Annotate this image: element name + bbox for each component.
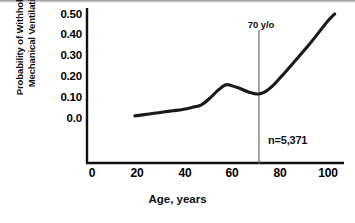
x-axis-title: Age, years	[0, 193, 355, 205]
x-tick-label: 20	[117, 166, 157, 180]
sample-size-annotation: n=5,371	[268, 134, 307, 146]
x-tick-label: 60	[212, 166, 252, 180]
x-tick-label: 80	[260, 166, 300, 180]
x-tick-label: 100	[308, 166, 348, 180]
plot-area	[0, 0, 355, 223]
figure-container: Probability of Withholding Mechanical Ve…	[0, 0, 355, 223]
x-tick-label: 0	[72, 166, 112, 180]
age-70-annotation-label: 70 y/o	[233, 19, 289, 30]
x-tick-label: 40	[165, 166, 205, 180]
